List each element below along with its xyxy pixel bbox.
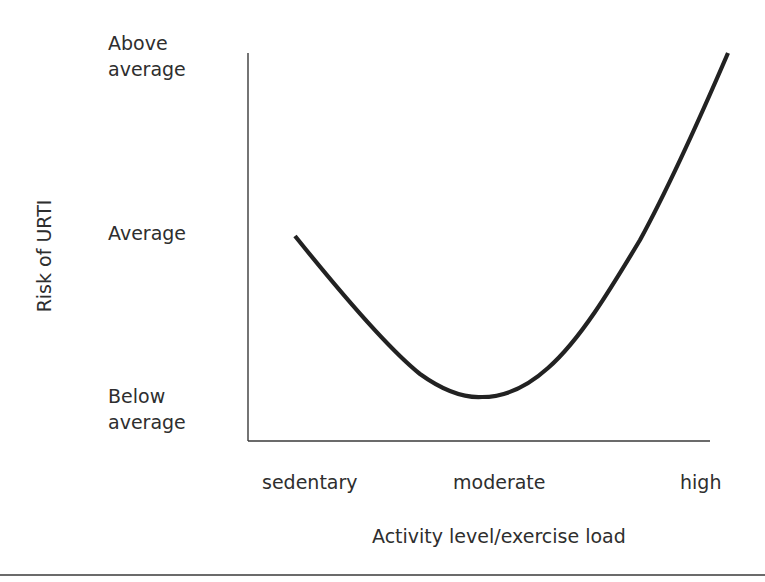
x-tick-sedentary: sedentary: [262, 469, 358, 495]
x-tick-high: high: [680, 469, 721, 495]
x-tick-moderate: moderate: [453, 469, 545, 495]
y-tick-below-average: Below average: [108, 383, 186, 435]
urti-risk-curve: [295, 53, 728, 397]
y-tick-average: Average: [108, 220, 186, 246]
y-tick-above-average: Above average: [108, 30, 186, 82]
y-axis-label: Risk of URTI: [33, 200, 55, 313]
x-axis-label: Activity level/exercise load: [372, 523, 626, 549]
chart-canvas: [0, 0, 765, 582]
